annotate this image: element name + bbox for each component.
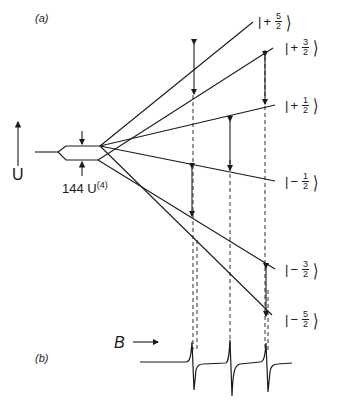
level-plus-1-2: [100, 105, 275, 146]
lower-split-level: [58, 152, 98, 160]
energy-level-diagram: [0, 0, 340, 400]
state-label-plus-3-2: |+32⟩: [285, 38, 318, 57]
state-label-minus-1-2: |−12⟩: [285, 172, 318, 191]
level-minus-1-2: [100, 146, 275, 181]
panel-label-b: (b): [35, 352, 48, 364]
field-axis-label: B: [114, 334, 125, 352]
state-label-plus-5-2: |+52⟩: [258, 12, 291, 31]
panel-label-a: (a): [35, 12, 48, 24]
epr-spectrum: [140, 340, 292, 396]
splitting-label: 144 U(4): [62, 180, 108, 196]
state-label-minus-3-2: |−32⟩: [285, 260, 318, 279]
energy-axis-label: U: [12, 166, 24, 184]
level-minus-5-2: [100, 146, 272, 315]
upper-split-level: [58, 146, 100, 152]
state-label-plus-1-2: |+12⟩: [285, 96, 318, 115]
level-minus-3-2: [98, 160, 275, 269]
state-label-minus-5-2: |−52⟩: [285, 310, 318, 329]
transition-arrows: [192, 44, 266, 316]
level-plus-3-2: [98, 48, 273, 160]
